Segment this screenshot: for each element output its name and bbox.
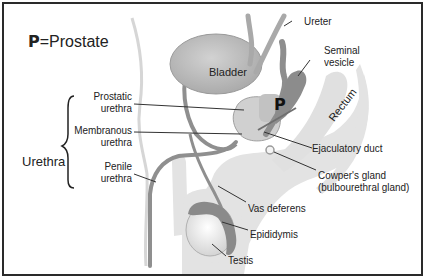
cowpers-gland-label: Cowper's gland(bulbourethral gland) xyxy=(318,169,409,193)
bladder-label: Bladder xyxy=(209,66,247,78)
body-contour-outline xyxy=(132,18,147,266)
testis-label: Testis xyxy=(228,254,253,266)
penile-urethra-label: Penileurethra xyxy=(89,160,132,184)
legend-title: P=Prostate xyxy=(28,32,109,51)
seminal-vesicle-label: Seminalvesicle xyxy=(324,44,360,68)
cowpers-gland xyxy=(266,146,274,154)
prostate-mark: P xyxy=(274,95,286,114)
prostatic-urethra-label: Prostaticurethra xyxy=(83,90,132,114)
membranous-urethra-label: Membranousurethra xyxy=(73,124,132,148)
ejaculatory-duct-label: Ejaculatory duct xyxy=(312,142,382,154)
ureter-label: Ureter xyxy=(304,15,332,27)
diagram-frame: P=Prostate Bladder P Rectum Urethra Pros… xyxy=(2,2,423,276)
vas-deferens-label: Vas deferens xyxy=(248,202,306,214)
epididymis-label: Epididymis xyxy=(250,228,298,240)
urethra-group-label: Urethra xyxy=(22,154,65,169)
